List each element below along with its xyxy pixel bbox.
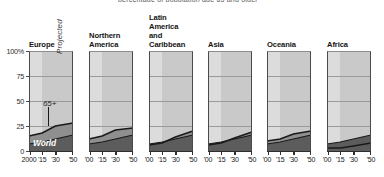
panel-title: Africa — [327, 40, 348, 49]
x-axis-tick — [310, 152, 311, 155]
x-axis-tick-label: '00 — [145, 156, 154, 163]
x-axis-tick-label: '00 — [85, 156, 94, 163]
x-axis-line — [89, 151, 133, 152]
chart-panel-africa: Africa'00'15'30'50 — [327, 0, 371, 177]
annotation-projected: Projected — [55, 19, 64, 54]
x-axis-tick-label: '15 — [336, 156, 345, 163]
x-axis-tick — [175, 152, 176, 155]
x-axis-tick — [268, 152, 269, 155]
x-axis-tick — [162, 152, 163, 155]
chart-panel-oceania: Oceania'00'15'30'50 — [267, 0, 311, 177]
x-axis-line — [327, 151, 371, 152]
x-axis-tick-label: '30 — [230, 156, 239, 163]
panel-title-line: Latin — [149, 13, 185, 22]
x-axis-tick-label: 2000 — [22, 156, 37, 163]
y-axis-tick-label: 0 — [0, 147, 24, 156]
series-layer — [267, 51, 311, 151]
panel-title: LatinAmericaandCaribbean — [149, 13, 185, 49]
panel-title-line: Caribbean — [149, 40, 185, 49]
x-axis-tick — [293, 152, 294, 155]
x-axis-tick — [251, 152, 252, 155]
x-axis-tick — [72, 152, 73, 155]
x-axis-line — [149, 151, 193, 152]
panel-title-line: America — [149, 22, 185, 31]
panel-title-line: Oceania — [267, 40, 296, 49]
x-axis-tick — [328, 152, 329, 155]
x-axis-tick — [42, 152, 43, 155]
x-axis-tick — [90, 152, 91, 155]
panel-title: NorthernAmerica — [89, 31, 120, 49]
small-multiples-chart: percentage of population age 65 and olde… — [0, 0, 384, 177]
series-layer — [208, 51, 252, 151]
chart-panel-northern-america: NorthernAmerica'00'15'30'50 — [89, 0, 133, 177]
panel-title-line: Africa — [327, 40, 348, 49]
series-layer — [149, 51, 193, 151]
x-axis-tick — [115, 152, 116, 155]
y-axis-tick-label: 50 — [0, 97, 24, 106]
annotation-leader-line — [48, 107, 49, 126]
panel-title-line: Northern — [89, 31, 120, 40]
x-axis-tick — [132, 152, 133, 155]
x-axis-tick-label: '15 — [158, 156, 167, 163]
x-axis-tick-label: '30 — [349, 156, 358, 163]
x-axis-tick-label: '15 — [98, 156, 107, 163]
x-axis-tick-label: '00 — [204, 156, 213, 163]
panel-title: Europe — [29, 40, 55, 49]
x-axis-tick — [221, 152, 222, 155]
x-axis-line — [29, 151, 73, 152]
x-axis-tick-label: '50 — [248, 156, 257, 163]
chart-panel-asia: Asia'00'15'30'50 — [208, 0, 252, 177]
panel-title: Oceania — [267, 40, 296, 49]
y-axis-tick-label: 25 — [0, 122, 24, 131]
panel-title-line: and — [149, 31, 185, 40]
x-axis-tick-label: '50 — [189, 156, 198, 163]
x-axis-tick — [209, 152, 210, 155]
series-layer — [29, 51, 73, 151]
x-axis-line — [208, 151, 252, 152]
x-axis-tick-label: '15 — [38, 156, 47, 163]
x-axis-line — [267, 151, 311, 152]
x-axis-tick-label: '30 — [289, 156, 298, 163]
y-axis-tick-label: 100% — [0, 47, 24, 56]
panel-title: Asia — [208, 40, 224, 49]
x-axis-tick-label: '50 — [69, 156, 78, 163]
x-axis-tick-label: '00 — [263, 156, 272, 163]
series-layer — [327, 51, 371, 151]
x-axis-tick — [30, 152, 31, 155]
x-axis-tick — [102, 152, 103, 155]
x-axis-tick — [234, 152, 235, 155]
x-axis-tick-label: '15 — [217, 156, 226, 163]
x-axis-tick-label: '30 — [171, 156, 180, 163]
x-axis-tick — [55, 152, 56, 155]
x-axis-tick-label: '30 — [51, 156, 60, 163]
series-layer — [89, 51, 133, 151]
x-axis-tick — [340, 152, 341, 155]
panel-title-line: Europe — [29, 40, 55, 49]
x-axis-tick — [353, 152, 354, 155]
x-axis-tick-label: '00 — [323, 156, 332, 163]
x-axis-tick-label: '50 — [307, 156, 316, 163]
x-axis-tick — [150, 152, 151, 155]
x-axis-tick — [192, 152, 193, 155]
x-axis-tick-label: '30 — [111, 156, 120, 163]
x-axis-tick — [280, 152, 281, 155]
panel-title-line: America — [89, 40, 120, 49]
panel-title-line: Asia — [208, 40, 224, 49]
y-axis-tick-label: 75 — [0, 72, 24, 81]
chart-panel-latin-america-and-caribbean: LatinAmericaandCaribbean'00'15'30'50 — [149, 0, 193, 177]
x-axis-tick-label: '50 — [129, 156, 138, 163]
x-axis-tick-label: '50 — [367, 156, 376, 163]
x-axis-tick — [370, 152, 371, 155]
chart-panel-europe: Europe2000'15'30'50Projected65+World — [29, 0, 73, 177]
x-axis-tick-label: '15 — [276, 156, 285, 163]
